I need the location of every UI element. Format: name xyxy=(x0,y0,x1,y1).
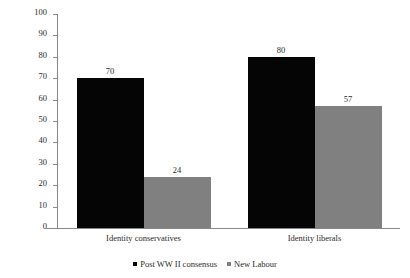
bar-value-label: 80 xyxy=(277,45,286,55)
x-axis-category-label: Identity conservatives xyxy=(64,233,224,243)
bar-value-label: 24 xyxy=(173,165,182,175)
y-axis-tick-label: 70 xyxy=(39,71,48,81)
y-axis-tick-label: 50 xyxy=(39,114,48,124)
y-axis-tick-label: 0 xyxy=(43,221,47,231)
bar: 24 xyxy=(144,177,211,228)
y-axis-tick-label: 20 xyxy=(39,178,48,188)
legend-item[interactable]: New Labour xyxy=(227,259,277,269)
legend-item-label: New Labour xyxy=(234,259,277,269)
y-axis-tick-label: 10 xyxy=(39,200,48,210)
y-axis-tick-label: 30 xyxy=(39,157,48,167)
bar: 57 xyxy=(315,106,382,228)
y-axis-tick-label: 60 xyxy=(39,93,48,103)
square-marker-icon xyxy=(227,262,231,266)
bar: 70 xyxy=(77,78,144,228)
legend-item[interactable]: Post WW II consensus xyxy=(133,259,217,269)
bar-value-label: 70 xyxy=(106,66,115,76)
bar: 80 xyxy=(248,57,315,228)
plot-area: 70248057 xyxy=(58,14,400,228)
legend-item-label: Post WW II consensus xyxy=(140,259,217,269)
bar-group: 7024 xyxy=(58,14,229,228)
bar-value-label: 57 xyxy=(344,94,353,104)
y-axis-tick-label: 80 xyxy=(39,50,48,60)
y-axis-tick-label: 90 xyxy=(39,28,48,38)
x-axis-category-label: Identity liberals xyxy=(235,233,395,243)
y-axis-tick-label: 40 xyxy=(39,135,48,145)
bar-group: 8057 xyxy=(229,14,400,228)
x-axis-line xyxy=(44,228,400,229)
y-axis-tick-label: 100 xyxy=(34,7,47,17)
square-marker-icon xyxy=(133,262,137,266)
chart-legend: Post WW II consensusNew Labour xyxy=(0,259,410,269)
bar-chart-figure: Percentage of partisans 1009080706050403… xyxy=(0,0,410,278)
